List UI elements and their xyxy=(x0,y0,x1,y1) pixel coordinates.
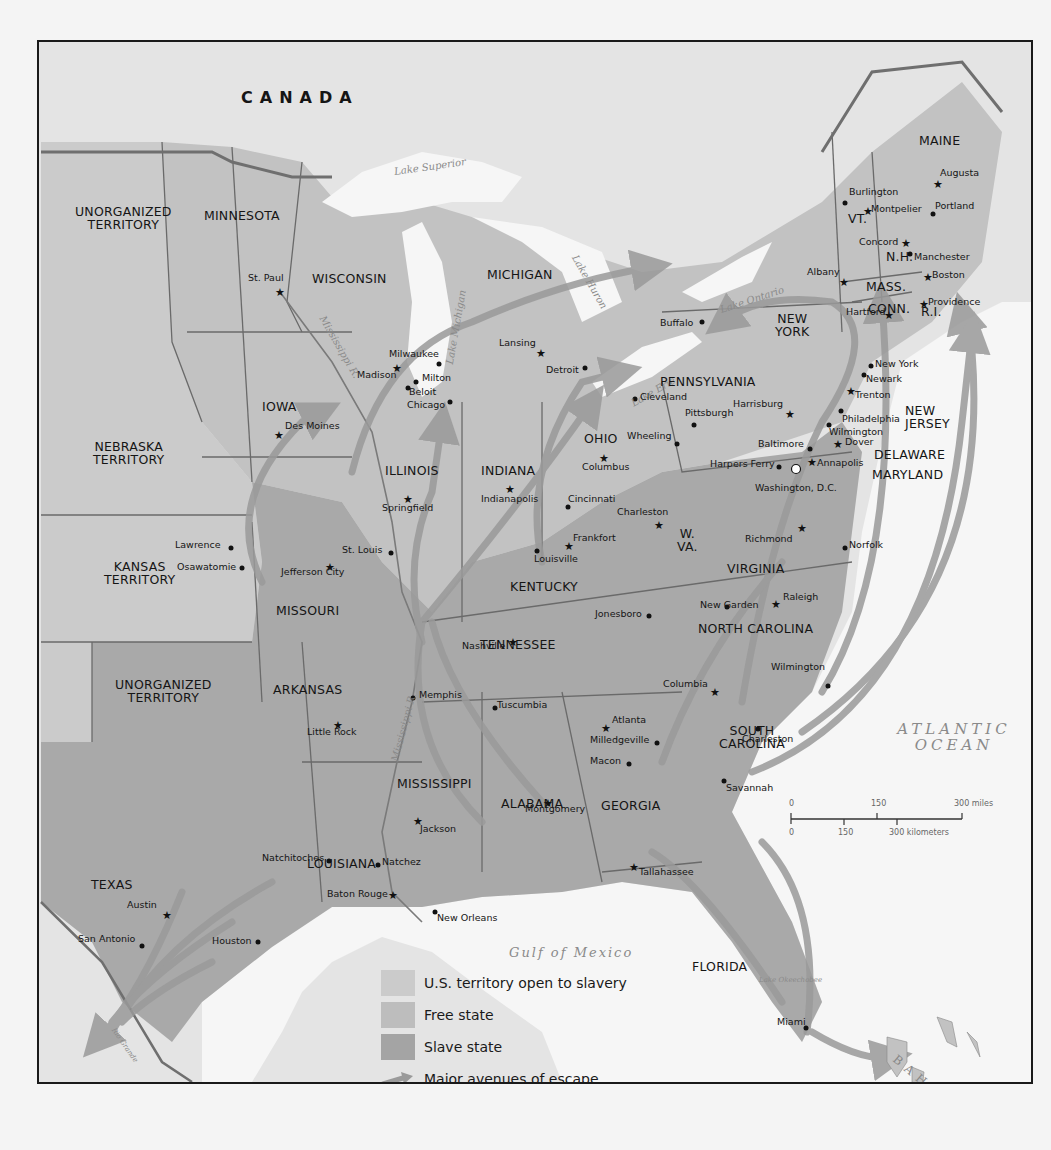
city-label: Des Moines xyxy=(285,421,340,431)
city-dot-icon xyxy=(256,940,261,945)
city-label: Austin xyxy=(127,900,157,910)
city-label: Annapolis xyxy=(817,458,863,468)
label-canada: CANADA xyxy=(241,90,359,107)
city-dot-icon xyxy=(843,546,848,551)
legend: U.S. territory open to slavery Free stat… xyxy=(381,970,627,1084)
swatch-slave-state xyxy=(381,1034,415,1060)
capital-star-icon: ★ xyxy=(785,408,795,421)
capital-star-icon: ★ xyxy=(275,286,285,299)
arrow-icon xyxy=(381,1066,415,1084)
city-label: Concord xyxy=(859,237,898,247)
city-label: Cincinnati xyxy=(568,494,615,504)
city-dot-icon xyxy=(675,442,680,447)
city-dot-icon xyxy=(843,201,848,206)
city-label: Manchester xyxy=(914,252,970,262)
city-label: Atlanta xyxy=(612,715,646,725)
city-label: Louisville xyxy=(534,554,578,564)
capital-star-icon: ★ xyxy=(807,456,817,469)
capital-star-icon: ★ xyxy=(771,598,781,611)
city-label: Natchez xyxy=(382,857,421,867)
label-west-virginia: W.VA. xyxy=(677,527,698,553)
label-illinois: ILLINOIS xyxy=(385,464,439,477)
city-label: Richmond xyxy=(745,534,793,544)
legend-label: Free state xyxy=(424,1007,494,1023)
label-virginia: VIRGINIA xyxy=(727,562,784,575)
city-label: Buffalo xyxy=(660,318,693,328)
city-label: New Orleans xyxy=(437,913,497,923)
label-ocean: OCEAN xyxy=(884,738,1024,754)
city-label: Little Rock xyxy=(307,727,357,737)
label-unorganized-territory-south: UNORGANIZEDTERRITORY xyxy=(115,678,212,704)
label-delaware: DELAWARE xyxy=(874,448,945,461)
city-label: Montpelier xyxy=(871,204,922,214)
label-nebraska-territory: NEBRASKATERRITORY xyxy=(93,440,164,466)
legend-item-free-state: Free state xyxy=(381,1002,627,1028)
legend-label: Slave state xyxy=(424,1039,502,1055)
city-dot-icon xyxy=(448,400,453,405)
city-label: Springfield xyxy=(382,503,433,513)
scale-km-300: 300 kilometers xyxy=(889,828,949,837)
capital-star-icon: ★ xyxy=(536,347,546,360)
city-dot-icon xyxy=(583,366,588,371)
city-label: Augusta xyxy=(940,168,979,178)
label-iowa: IOWA xyxy=(262,400,297,413)
capital-star-icon: ★ xyxy=(388,889,398,902)
city-dot-icon xyxy=(566,505,571,510)
label-georgia: GEORGIA xyxy=(601,799,660,812)
city-label: Trenton xyxy=(855,390,891,400)
city-label: Savannah xyxy=(726,783,773,793)
city-label: Beloit xyxy=(409,387,436,397)
city-label: Montgomery xyxy=(525,804,585,814)
city-label: Chicago xyxy=(407,400,445,410)
scale-km-150: 150 xyxy=(838,828,853,837)
legend-label: Major avenues of escape xyxy=(424,1071,599,1084)
city-label: Osawatomie xyxy=(177,562,236,572)
capital-star-icon: ★ xyxy=(797,522,807,535)
legend-label: U.S. territory open to slavery xyxy=(424,975,627,991)
city-label: Columbia xyxy=(663,679,708,689)
city-label: Tallahassee xyxy=(639,867,694,877)
city-label: Milledgeville xyxy=(590,735,649,745)
city-label: Madison xyxy=(357,370,396,380)
national-capital-icon xyxy=(792,465,801,474)
city-label: Harrisburg xyxy=(733,399,783,409)
city-label: Lawrence xyxy=(175,540,221,550)
capital-star-icon: ★ xyxy=(654,519,664,532)
label-minnesota: MINNESOTA xyxy=(204,209,280,222)
swatch-free-state xyxy=(381,1002,415,1028)
label-florida: FLORIDA xyxy=(692,960,747,973)
city-dot-icon xyxy=(414,380,419,385)
city-dot-icon xyxy=(140,944,145,949)
label-missouri: MISSOURI xyxy=(276,604,339,617)
label-new-york: NEWYORK xyxy=(775,312,809,338)
capital-star-icon: ★ xyxy=(710,686,720,699)
scale-miles-150: 150 xyxy=(871,799,886,808)
city-label: Baton Rouge xyxy=(327,889,388,899)
city-label: St. Paul xyxy=(248,273,284,283)
legend-item-escape-route: Major avenues of escape xyxy=(381,1066,627,1084)
label-ohio: OHIO xyxy=(584,432,618,445)
city-dot-icon xyxy=(777,465,782,470)
city-label: New York xyxy=(875,359,919,369)
city-label: Columbus xyxy=(582,462,629,472)
scale-miles-0: 0 xyxy=(789,799,794,808)
city-dot-icon xyxy=(627,762,632,767)
label-pennsylvania: PENNSYLVANIA xyxy=(660,375,756,388)
city-dot-icon xyxy=(376,863,381,868)
label-new-hampshire: N.H. xyxy=(886,250,913,263)
label-new-jersey: NEWJERSEY xyxy=(905,404,950,430)
city-label: Indianapolis xyxy=(481,494,538,504)
scale-bar: 0 150 300 miles 0 150 300 kilometers xyxy=(789,794,969,844)
city-label: Newark xyxy=(866,374,902,384)
swatch-territory-open-to-slavery xyxy=(381,970,415,996)
label-atlantic-ocean: ATLANTIC OCEAN xyxy=(884,722,1024,754)
scale-miles-300: 300 miles xyxy=(954,799,993,808)
city-label: Wilmington xyxy=(771,662,825,672)
city-label: Pittsburgh xyxy=(685,408,733,418)
city-label: Harpers Ferry xyxy=(710,459,775,469)
city-label: Houston xyxy=(212,936,251,946)
city-label: Wheeling xyxy=(627,431,671,441)
city-label: Tuscumbia xyxy=(497,700,547,710)
city-label: Lansing xyxy=(499,338,536,348)
city-label: Detroit xyxy=(546,365,579,375)
